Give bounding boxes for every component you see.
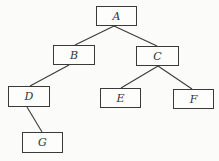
node-a-label: A <box>113 10 121 23</box>
node-a: A <box>96 6 137 26</box>
node-g-label: G <box>38 136 47 149</box>
tree-diagram: A B C D E F G <box>0 0 219 161</box>
node-e-label: E <box>116 92 124 105</box>
node-e: E <box>100 88 141 108</box>
edge-b-d <box>30 65 69 86</box>
edge-a-b <box>75 26 114 45</box>
node-f: F <box>173 89 214 109</box>
node-f-label: F <box>190 93 198 106</box>
node-c-label: C <box>153 50 161 63</box>
node-d-label: D <box>25 90 34 103</box>
edge-a-c <box>114 26 157 46</box>
node-b-label: B <box>70 49 78 62</box>
node-c: C <box>136 46 179 66</box>
edge-c-e <box>121 66 158 88</box>
node-d: D <box>8 86 50 107</box>
edge-d-g <box>27 107 42 132</box>
node-b: B <box>53 45 95 65</box>
node-g: G <box>22 132 63 153</box>
edge-c-f <box>158 66 192 89</box>
